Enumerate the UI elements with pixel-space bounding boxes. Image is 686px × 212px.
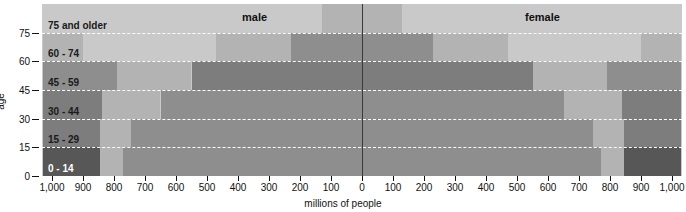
x-tick-label: 500 [199,182,216,193]
female-label: female [525,11,560,23]
x-tick-label: 300 [447,182,464,193]
x-axis-title: millions of people [0,198,686,209]
x-tick-mark [362,176,363,181]
band-segment [83,33,216,62]
band-segment [564,90,623,119]
x-tick-label: 400 [230,182,247,193]
band-segment [641,33,681,62]
x-tick-label: 600 [540,182,557,193]
x-tick-label: 200 [292,182,309,193]
y-axis-title: age [0,93,6,110]
age-band-label: 75 and older [48,20,107,31]
band-segment [593,119,624,148]
x-tick-mark [548,176,549,181]
band-segment [624,119,681,148]
y-tick-mark [32,90,39,91]
band-segment [161,90,363,119]
age-band-label: 30 - 44 [48,106,79,117]
x-tick-mark [52,176,53,181]
x-tick-label: 100 [385,182,402,193]
male-label: male [242,11,267,23]
band-segment [192,61,363,90]
x-tick-mark [424,176,425,181]
y-tick-label: 30 [19,113,30,124]
band-segment [433,33,507,62]
band-segment [362,90,564,119]
plot-area: 75 and older60 - 7445 - 5930 - 4415 - 29… [42,4,682,176]
y-tick-label: 45 [19,85,30,96]
band-segment [216,33,290,62]
band-segment [100,119,131,148]
x-tick-mark [300,176,301,181]
x-tick-label: 200 [416,182,433,193]
band-segment [102,90,161,119]
x-tick-label: 700 [137,182,154,193]
x-tick-mark [114,176,115,181]
age-band-label: 15 - 29 [48,134,79,145]
band-segment [131,119,362,148]
band-segment [362,119,593,148]
x-tick-mark [176,176,177,181]
x-tick-mark [641,176,642,181]
x-tick-label: 800 [602,182,619,193]
x-tick-mark [207,176,208,181]
x-tick-label: 800 [106,182,123,193]
x-tick-mark [610,176,611,181]
x-tick-label: 0 [359,182,365,193]
band-segment [291,33,362,62]
x-tick-label: 1,000 [659,182,684,193]
band-segment [100,147,123,176]
y-tick-label: 60 [19,56,30,67]
x-tick-mark [331,176,332,181]
x-tick-mark [145,176,146,181]
y-tick-mark [32,119,39,120]
x-tick-mark [83,176,84,181]
x-tick-label: 600 [168,182,185,193]
x-tick-label: 300 [261,182,278,193]
x-tick-mark [579,176,580,181]
x-axis: 1,00090080070060050040030020010001002003… [0,176,686,212]
x-tick-mark [455,176,456,181]
age-band-label: 0 - 14 [48,163,74,174]
x-tick-mark [517,176,518,181]
y-tick-label: 75 [19,27,30,38]
band-segment [362,61,533,90]
x-tick-mark [393,176,394,181]
age-band-label: 60 - 74 [48,48,79,59]
x-tick-label: 400 [478,182,495,193]
population-pyramid-chart: 75 and older60 - 7445 - 5930 - 4415 - 29… [0,0,686,212]
x-tick-mark [672,176,673,181]
band-segment [607,61,681,90]
x-tick-mark [486,176,487,181]
band-segment [622,90,681,119]
x-tick-label: 900 [75,182,92,193]
x-tick-label: 700 [571,182,588,193]
x-tick-label: 500 [509,182,526,193]
y-tick-mark [32,147,39,148]
band-segment [508,33,641,62]
age-band-label: 45 - 59 [48,77,79,88]
x-tick-mark [238,176,239,181]
x-tick-label: 1,000 [39,182,64,193]
band-segment [624,147,681,176]
x-tick-label: 900 [633,182,650,193]
center-axis-line [362,4,363,176]
band-segment [322,4,362,33]
band-segment [362,4,402,33]
band-segment [117,61,191,90]
y-tick-label: 15 [19,142,30,153]
band-segment [123,147,362,176]
band-segment [362,33,433,62]
band-segment [533,61,607,90]
y-tick-mark [32,61,39,62]
x-tick-mark [269,176,270,181]
band-segment [362,147,601,176]
band-segment [601,147,624,176]
y-tick-mark [32,33,39,34]
x-tick-label: 100 [323,182,340,193]
